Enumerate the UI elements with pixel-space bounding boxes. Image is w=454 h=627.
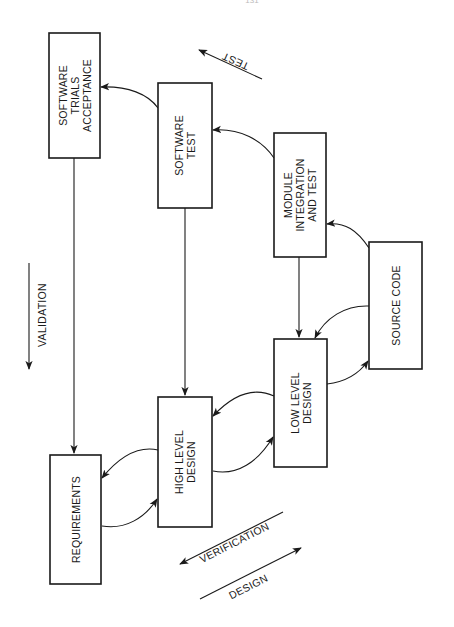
module-label-line-2: INTEGRATION [294, 158, 306, 231]
trials-label-line-2: TRIALS [69, 77, 81, 115]
low-level-label-line-2: DESIGN [301, 382, 313, 423]
requirements-label: REQUIREMENTS [70, 476, 82, 563]
source-to-module-arrow [327, 224, 369, 248]
low-level-to-source-arrow [327, 361, 368, 384]
high-level-to-low-level-arrow [213, 437, 273, 472]
source-code-label: SOURCE CODE [390, 265, 402, 345]
v-model-diagram: 131 SOFTWARE TRIALS ACCEPTANCE SOFTWARE … [0, 0, 454, 627]
trials-label-line-3: ACCEPTANCE [81, 59, 93, 132]
box-software-trials-acceptance: SOFTWARE TRIALS ACCEPTANCE [49, 33, 100, 158]
requirements-to-high-level-arrow [102, 499, 157, 527]
high-level-label-line-1: HIGH LEVEL [173, 430, 185, 494]
box-high-level-design: HIGH LEVEL DESIGN [158, 397, 212, 527]
box-low-level-design: LOW LEVEL DESIGN [274, 339, 327, 467]
box-software-test: SOFTWARE TEST [158, 83, 212, 208]
high-level-label-line-2: DESIGN [185, 441, 197, 482]
test-to-trials-arrow [101, 87, 158, 108]
box-source-code: SOURCE CODE [369, 242, 422, 369]
test-direction-indicator: TEST [199, 50, 262, 79]
box-requirements: REQUIREMENTS [50, 455, 101, 584]
design-direction-label: DESIGN [227, 572, 270, 602]
source-to-low-level-arrow [315, 306, 369, 338]
trials-label-line-1: SOFTWARE [57, 65, 69, 126]
module-label-line-3: AND TEST [306, 168, 318, 222]
test-direction-label: TEST [220, 50, 251, 72]
low-level-label-line-1: LOW LEVEL [289, 372, 301, 433]
module-to-test-arrow [213, 130, 274, 158]
high-level-to-requirements-arrow [102, 449, 158, 478]
validation-direction-label: VALIDATION [36, 283, 48, 347]
low-level-to-high-level-arrow [213, 392, 274, 416]
page-number: 131 [245, 0, 259, 5]
software-test-label-line-2: TEST [185, 131, 197, 159]
module-label-line-1: MODULE [282, 172, 294, 218]
box-module-integration-and-test: MODULE INTEGRATION AND TEST [274, 133, 326, 257]
validation-direction-indicator: VALIDATION [29, 263, 48, 369]
software-test-label-line-1: SOFTWARE [173, 115, 185, 176]
